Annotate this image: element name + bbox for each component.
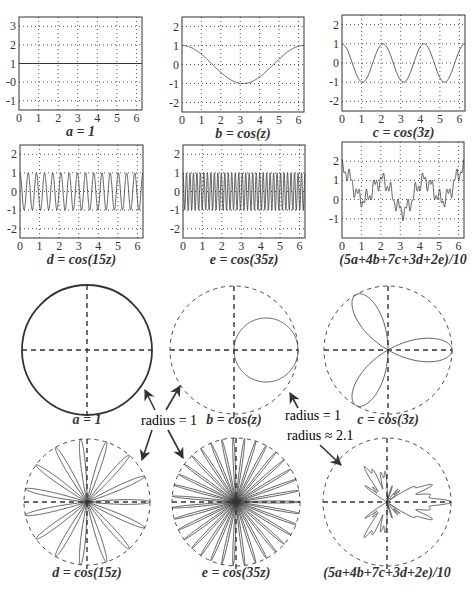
y-tick-label: 1 [174, 166, 180, 180]
polar-a: a = 1 [22, 285, 152, 427]
x-tick-label: 0 [179, 113, 185, 127]
x-tick-label: 5 [437, 112, 443, 126]
polar-caption: b = cos(z) [206, 412, 261, 428]
plot-a: 0123456321-0-1a = 1 [6, 17, 142, 139]
x-tick-label: 6 [134, 239, 140, 253]
x-tick-label: 5 [277, 239, 283, 253]
arrow-to-circle-a [145, 390, 155, 410]
plot-mix: 0123456210-1(5a+4b+7c+3d+2e)/10 [329, 142, 467, 268]
y-tick-label: -2 [169, 96, 179, 110]
y-tick-label: 2 [173, 20, 179, 34]
x-tick-label: 3 [76, 239, 82, 253]
x-tick-label: 2 [56, 239, 62, 253]
plot-caption: c = cos(3z) [373, 125, 435, 141]
arrow-to-circle-b-right [290, 393, 298, 408]
y-tick-label: -2 [329, 94, 339, 108]
y-tick-label: 1 [333, 37, 339, 51]
plot-b: 0123456210-1-2b = cos(z) [169, 17, 304, 142]
x-tick-label: 6 [296, 113, 302, 127]
x-tick-label: 0 [16, 111, 22, 125]
x-tick-label: 6 [133, 111, 139, 125]
plot-caption: e = cos(35z) [210, 252, 279, 268]
x-tick-label: 3 [75, 111, 81, 125]
x-tick-label: 5 [115, 239, 121, 253]
y-tick-label: 2 [174, 147, 180, 161]
x-tick-label: 0 [180, 239, 186, 253]
x-tick-label: 2 [218, 113, 224, 127]
radius-one-label-right: radius = 1 [285, 408, 341, 423]
arrow-to-circle-mix [320, 445, 341, 465]
arrow-to-circle-b [166, 386, 180, 410]
y-tick-label: 0 [333, 193, 339, 207]
x-tick-label: 1 [199, 239, 205, 253]
x-tick-label: 4 [257, 113, 263, 127]
x-tick-label: 5 [436, 239, 442, 253]
cartesian-plots: 0123456321-0-1a = 10123456210-1-2b = cos… [6, 15, 467, 268]
x-tick-label: 3 [398, 112, 404, 126]
grid [342, 15, 465, 111]
x-tick-label: 0 [339, 239, 345, 253]
x-tick-label: 4 [417, 112, 423, 126]
y-tick-label: 1 [11, 166, 17, 180]
x-tick-label: 6 [297, 239, 303, 253]
y-tick-label: 0 [11, 185, 17, 199]
y-tick-label: -1 [170, 203, 180, 217]
x-tick-label: 3 [397, 239, 403, 253]
plot-caption: (5a+4b+7c+3d+2e)/10 [339, 252, 467, 268]
polar-b: b = cos(z) [170, 286, 298, 428]
y-tick-label: 2 [11, 147, 17, 161]
polar-plots: a = 1b = cos(z)c = cos(3z)d = cos(15z)e … [22, 285, 452, 581]
x-tick-label: 2 [219, 239, 225, 253]
y-tick-label: 2 [10, 38, 16, 52]
plot-d: 0123456210-1-2d = cos(15z) [7, 145, 143, 268]
x-tick-label: 2 [378, 112, 384, 126]
arrow-to-circle-d [142, 430, 152, 460]
x-tick-label: 4 [95, 239, 101, 253]
y-tick-label: -0 [6, 75, 16, 89]
x-tick-label: 4 [258, 239, 264, 253]
x-tick-label: 5 [276, 113, 282, 127]
polar-caption: d = cos(15z) [52, 565, 121, 581]
x-tick-label: 4 [94, 111, 100, 125]
polar-e: e = cos(35z) [172, 438, 300, 581]
x-tick-label: 5 [114, 111, 120, 125]
y-tick-label: 1 [173, 39, 179, 53]
grid [342, 142, 464, 238]
y-tick-label: -2 [7, 222, 17, 236]
radius-one-label-left: radius = 1 [141, 413, 197, 428]
y-tick-label: 0 [174, 185, 180, 199]
x-tick-label: 1 [358, 239, 364, 253]
curve-mix [342, 159, 464, 220]
x-tick-label: 6 [456, 239, 462, 253]
polar-caption: e = cos(35z) [202, 565, 271, 581]
x-tick-label: 3 [238, 239, 244, 253]
plot-caption: d = cos(15z) [47, 252, 116, 268]
polar-d: d = cos(15z) [24, 439, 150, 581]
radius-approx-label: radius ≈ 2.1 [287, 428, 353, 443]
polar-c: c = cos(3z) [324, 286, 452, 428]
x-tick-label: 2 [55, 111, 61, 125]
y-tick-label: 1 [333, 173, 339, 187]
y-tick-label: 3 [10, 19, 16, 33]
polar-caption: (5a+4b+7c+3d+2e)/10 [323, 565, 451, 581]
x-tick-label: 0 [17, 239, 23, 253]
x-tick-label: 3 [237, 113, 243, 127]
grid [182, 17, 304, 112]
x-tick-label: 2 [378, 239, 384, 253]
figure: 0123456321-0-1a = 10123456210-1-2b = cos… [0, 0, 472, 592]
y-tick-label: -1 [329, 212, 339, 226]
x-tick-label: 1 [37, 239, 43, 253]
y-tick-label: -1 [7, 203, 17, 217]
polar-mix: (5a+4b+7c+3d+2e)/10 [323, 438, 451, 581]
y-tick-label: 0 [333, 56, 339, 70]
x-tick-label: 1 [198, 113, 204, 127]
plot-caption: a = 1 [66, 124, 95, 139]
x-tick-label: 4 [417, 239, 423, 253]
plot-caption: b = cos(z) [215, 126, 270, 142]
x-tick-label: 6 [456, 112, 462, 126]
y-tick-label: -2 [170, 222, 180, 236]
x-tick-label: 1 [36, 111, 42, 125]
y-tick-label: -1 [6, 94, 16, 108]
y-tick-label: 0 [173, 58, 179, 72]
arrow-to-circle-e [168, 430, 183, 458]
